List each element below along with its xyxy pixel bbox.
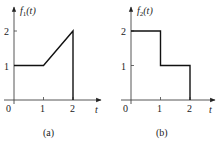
- x-tick-2: 2: [187, 103, 192, 114]
- x-axis-label: t: [95, 104, 98, 115]
- x-tick-0: 0: [123, 103, 128, 114]
- x-tick-1: 1: [40, 103, 45, 114]
- panel-a: 0 1 2 1 2 f1(t) t (a): [4, 5, 101, 139]
- y-tick-1: 1: [4, 61, 9, 72]
- x-tick-1: 1: [157, 103, 162, 114]
- caption-a: (a): [43, 127, 54, 139]
- series-f1: [14, 31, 73, 100]
- x-tick-2: 2: [70, 103, 75, 114]
- y-tick-1: 1: [121, 61, 126, 72]
- y-tick-2: 2: [4, 26, 9, 37]
- y-tick-2: 2: [121, 26, 126, 37]
- figure: 0 1 2 1 2 f1(t) t (a) 0 1 2 1 2 f2(t) t …: [0, 0, 216, 145]
- x-tick-0: 0: [6, 103, 11, 114]
- y-axis-label: f2(t): [137, 5, 153, 18]
- series-f2: [131, 31, 190, 100]
- caption-b: (b): [156, 127, 168, 139]
- y-axis-label: f1(t): [20, 5, 36, 18]
- panel-b: 0 1 2 1 2 f2(t) t (b): [121, 5, 215, 139]
- x-axis-label: t: [209, 104, 212, 115]
